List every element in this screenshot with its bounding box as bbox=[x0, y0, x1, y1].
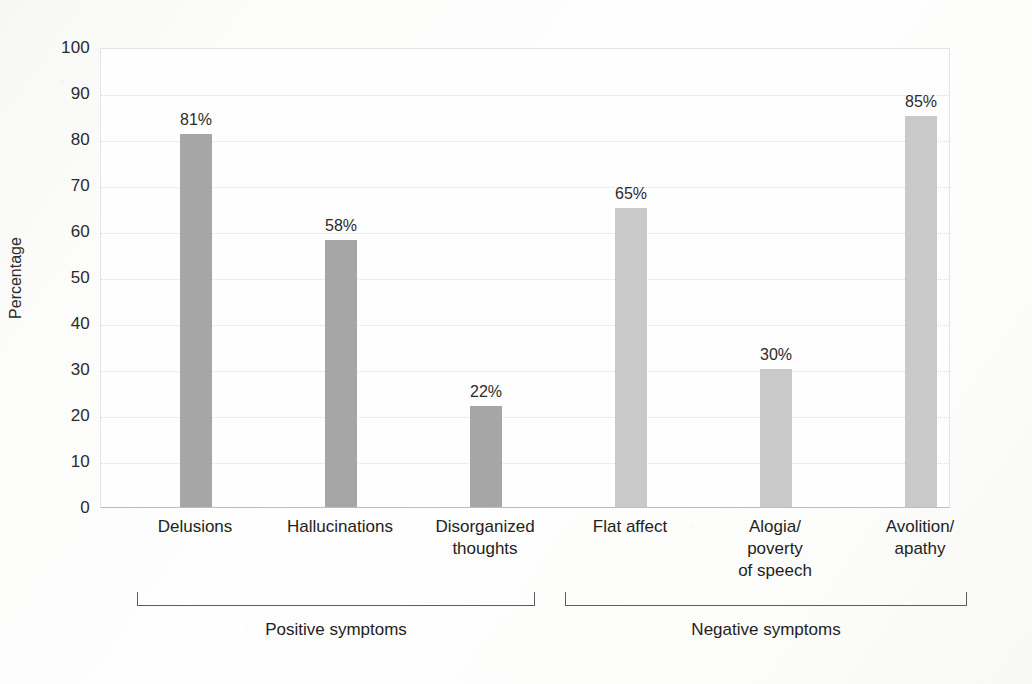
gridline-90 bbox=[101, 95, 949, 96]
bar-value-avolition: 85% bbox=[905, 93, 937, 111]
bracket-positive-symptoms bbox=[137, 592, 535, 606]
y-tick-0: 0 bbox=[44, 498, 90, 518]
category-label-alogia-line2: poverty bbox=[691, 538, 859, 560]
category-label-alogia-line1: Alogia/ bbox=[691, 516, 859, 538]
group-label-negative-symptoms: Negative symptoms bbox=[691, 620, 840, 640]
gridline-30 bbox=[101, 371, 949, 372]
bar-alogia[interactable]: 30% bbox=[760, 369, 792, 507]
category-label-alogia-line3: of speech bbox=[691, 560, 859, 582]
bar-flat-affect[interactable]: 65% bbox=[615, 208, 647, 507]
y-tick-60: 60 bbox=[44, 222, 90, 242]
gridline-20 bbox=[101, 417, 949, 418]
group-label-positive-symptoms: Positive symptoms bbox=[265, 620, 407, 640]
gridline-50 bbox=[101, 279, 949, 280]
bar-value-disorganized-thoughts: 22% bbox=[470, 383, 502, 401]
category-label-flat-affect: Flat affect bbox=[546, 516, 714, 538]
gridline-70 bbox=[101, 187, 949, 188]
y-tick-70: 70 bbox=[44, 176, 90, 196]
category-label-delusions-line1: Delusions bbox=[111, 516, 279, 538]
y-tick-20: 20 bbox=[44, 406, 90, 426]
category-label-delusions: Delusions bbox=[111, 516, 279, 538]
category-label-disorganized-thoughts-line2: thoughts bbox=[401, 538, 569, 560]
y-tick-10: 10 bbox=[44, 452, 90, 472]
bar-avolition[interactable]: 85% bbox=[905, 116, 937, 507]
y-tick-40: 40 bbox=[44, 314, 90, 334]
category-label-hallucinations-line1: Hallucinations bbox=[256, 516, 424, 538]
category-label-avolition-line1: Avolition/ bbox=[836, 516, 1004, 538]
gridline-40 bbox=[101, 325, 949, 326]
category-label-avolition-line2: apathy bbox=[836, 538, 1004, 560]
category-label-disorganized-thoughts-line1: Disorganized bbox=[401, 516, 569, 538]
y-tick-80: 80 bbox=[44, 130, 90, 150]
y-tick-100: 100 bbox=[44, 38, 90, 58]
bar-hallucinations[interactable]: 58% bbox=[325, 240, 357, 507]
gridline-60 bbox=[101, 233, 949, 234]
category-label-hallucinations: Hallucinations bbox=[256, 516, 424, 538]
category-label-disorganized-thoughts: Disorganized thoughts bbox=[401, 516, 569, 560]
plot-area: 81% 58% 22% 65% 30% 85% bbox=[100, 48, 950, 508]
bar-value-delusions: 81% bbox=[180, 111, 212, 129]
y-axis-title: Percentage bbox=[7, 237, 25, 319]
y-tick-50: 50 bbox=[44, 268, 90, 288]
bar-delusions[interactable]: 81% bbox=[180, 134, 212, 507]
y-axis-ticks: 100 90 80 70 60 50 40 30 20 10 0 bbox=[42, 48, 90, 508]
category-label-flat-affect-line1: Flat affect bbox=[546, 516, 714, 538]
bracket-negative-symptoms bbox=[565, 592, 967, 606]
bar-value-hallucinations: 58% bbox=[325, 217, 357, 235]
y-tick-30: 30 bbox=[44, 360, 90, 380]
bar-value-alogia: 30% bbox=[760, 346, 792, 364]
bar-value-flat-affect: 65% bbox=[615, 185, 647, 203]
gridline-80 bbox=[101, 141, 949, 142]
category-label-avolition: Avolition/ apathy bbox=[836, 516, 1004, 560]
category-label-alogia: Alogia/ poverty of speech bbox=[691, 516, 859, 581]
y-tick-90: 90 bbox=[44, 84, 90, 104]
bar-disorganized-thoughts[interactable]: 22% bbox=[470, 406, 502, 507]
gridline-10 bbox=[101, 463, 949, 464]
figure-page: Percentage 100 90 80 70 60 50 40 30 20 1… bbox=[0, 0, 1032, 684]
